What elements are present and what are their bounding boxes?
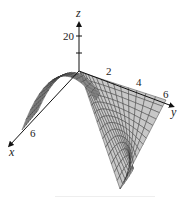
y-tick-label-6: 6 bbox=[163, 88, 169, 100]
surface-hump bbox=[22, 72, 100, 130]
y-tick-label-2: 2 bbox=[106, 65, 112, 77]
z-tick-label-20: 20 bbox=[63, 30, 75, 42]
y-tick-label-4: 4 bbox=[136, 76, 142, 88]
surface-plot: z 20 2 4 6 y 6 x bbox=[0, 0, 190, 199]
z-axis-label: z bbox=[75, 6, 81, 20]
divider bbox=[55, 196, 155, 197]
x-axis: 6 x bbox=[8, 71, 79, 159]
x-axis-label: x bbox=[8, 145, 15, 159]
z-axis: z 20 bbox=[63, 6, 82, 71]
y-axis-label: y bbox=[170, 105, 177, 119]
x-tick-label-6: 6 bbox=[30, 127, 36, 139]
